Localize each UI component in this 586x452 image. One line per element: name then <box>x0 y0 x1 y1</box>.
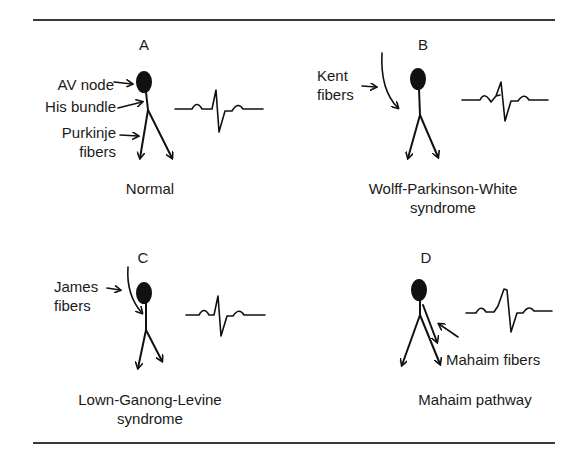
purkinje-arrow <box>120 135 138 136</box>
panel-c-letter: C <box>135 249 151 267</box>
panel-b-heart-figure <box>408 69 438 158</box>
ecg-d <box>466 289 552 332</box>
label-kent: Kent <box>317 67 348 85</box>
label-purkinje: Purkinje <box>30 124 116 142</box>
panel-a-heart-figure <box>137 72 172 158</box>
label-purkinje-fibers: fibers <box>30 143 116 161</box>
label-kent-fibers: fibers <box>317 86 354 104</box>
kent-arrow <box>362 86 376 87</box>
label-his-bundle: His bundle <box>10 98 116 116</box>
panel-c-caption-line1: Lown-Ganong-Levine <box>60 391 240 409</box>
panel-d-heart-figure <box>402 280 440 365</box>
panel-b-caption-line2: syndrome <box>343 199 543 217</box>
label-av-node: AV node <box>20 76 114 94</box>
label-james-fibers: fibers <box>54 297 91 315</box>
label-james: James <box>54 278 98 296</box>
panel-a-caption: Normal <box>100 180 200 198</box>
conduction-diagrams <box>0 0 586 452</box>
panel-a-letter: A <box>136 36 152 54</box>
ecg-c <box>186 296 265 336</box>
panel-b-letter: B <box>415 36 431 54</box>
ecg-b <box>462 82 548 121</box>
ecg-a <box>175 90 263 132</box>
panel-d-letter: D <box>418 249 434 267</box>
panel-d-caption: Mahaim pathway <box>400 391 550 409</box>
panel-b-caption-line1: Wolff-Parkinson-White <box>343 180 543 198</box>
av-node-arrow <box>114 82 132 84</box>
mahaim-arrow <box>439 324 458 337</box>
kent-fiber-pathway <box>382 53 398 108</box>
panel-c-caption-line2: syndrome <box>60 410 240 428</box>
his-bundle-arrow <box>118 102 142 108</box>
panel-c-heart-figure <box>137 283 162 368</box>
label-mahaim-fibers: Mahaim fibers <box>446 351 540 369</box>
james-arrow <box>107 288 120 290</box>
